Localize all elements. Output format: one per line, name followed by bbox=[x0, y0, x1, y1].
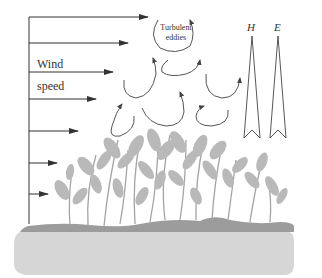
eddy-arrow bbox=[124, 58, 156, 98]
eddy-arrow bbox=[196, 106, 228, 126]
wind-label-line2: speed bbox=[37, 80, 64, 92]
evaporation-flux-arrow bbox=[270, 36, 286, 138]
flux-label-e: E bbox=[274, 22, 281, 33]
eddy-arrow bbox=[206, 74, 240, 98]
eddy-arrow bbox=[111, 104, 134, 136]
flux-arrows bbox=[244, 36, 286, 138]
eddy-arrow bbox=[142, 92, 184, 126]
eddies-label-line2: eddies bbox=[152, 33, 200, 43]
soil-layer bbox=[14, 217, 294, 275]
eddy-arrow bbox=[162, 60, 200, 76]
canopy-turbulence-diagram: Wind speed Turbulent eddies H E bbox=[0, 0, 322, 278]
flux-label-h: H bbox=[247, 22, 255, 33]
eddies-label: Turbulent eddies bbox=[152, 23, 200, 43]
wind-label-line1: Wind bbox=[37, 58, 63, 70]
eddies-label-line1: Turbulent bbox=[152, 23, 200, 33]
heat-flux-arrow bbox=[244, 36, 260, 138]
